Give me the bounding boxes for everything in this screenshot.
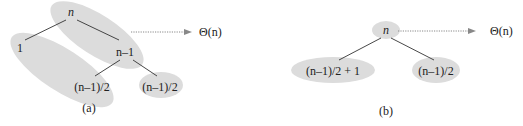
node-right-child: n–1 bbox=[116, 45, 134, 59]
node-rc-right: (n–1)/2 bbox=[142, 80, 177, 94]
cost-label: Θ(n) bbox=[490, 24, 513, 38]
cost-label: Θ(n) bbox=[199, 25, 222, 39]
node-root: n bbox=[383, 23, 389, 37]
recursion-tree-figure: n 1 n–1 (n–1)/2 (n–1)/2 Θ(n) (a) n (n–1)… bbox=[0, 0, 523, 126]
edge-root-right bbox=[391, 38, 434, 60]
caption-b: (b) bbox=[379, 104, 393, 118]
figure-a: n 1 n–1 (n–1)/2 (n–1)/2 Θ(n) (a) bbox=[0, 0, 221, 120]
edge-root-left bbox=[339, 38, 381, 60]
figure-b: n (n–1)/2 + 1 (n–1)/2 Θ(n) (b) bbox=[291, 21, 513, 118]
node-left-leaf: 1 bbox=[17, 41, 23, 55]
edge-root-left bbox=[25, 20, 66, 40]
node-root: n bbox=[68, 5, 74, 19]
caption-a: (a) bbox=[82, 101, 95, 115]
arrowhead-icon bbox=[184, 29, 192, 35]
node-rc-left: (n–1)/2 bbox=[74, 80, 109, 94]
node-right-child: (n–1)/2 bbox=[418, 64, 453, 78]
node-left-child: (n–1)/2 + 1 bbox=[306, 64, 360, 78]
arrowhead-icon bbox=[468, 28, 476, 34]
